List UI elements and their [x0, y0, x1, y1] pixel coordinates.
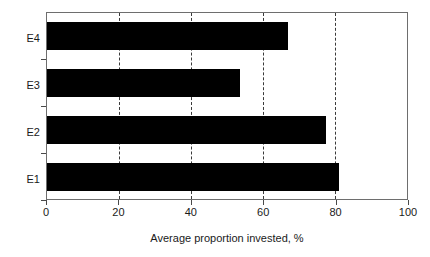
bar-e1	[47, 163, 339, 191]
x-axis-ticklabel-40: 40	[171, 206, 211, 219]
bar-e3	[47, 69, 240, 97]
bar-chart-figure: E4 E3 E2 E1 0 20 40 60 80 100 Average pr…	[0, 0, 430, 257]
x-axis-ticklabel-0: 0	[26, 206, 66, 219]
x-axis-tick-20	[118, 200, 119, 205]
x-axis-tick-0	[46, 200, 47, 205]
bar-e4	[47, 22, 288, 50]
x-axis-tick-60	[263, 200, 264, 205]
x-axis-tick-40	[191, 200, 192, 205]
y-axis-label-e1: E1	[6, 174, 40, 185]
x-axis-tick-100	[408, 200, 409, 205]
x-axis-title: Average proportion invested, %	[46, 232, 408, 244]
bar-e2	[47, 116, 326, 144]
x-axis-ticklabel-100: 100	[388, 206, 428, 219]
plot-area	[46, 12, 408, 200]
x-axis-tick-80	[336, 200, 337, 205]
y-axis-label-e2: E2	[6, 127, 40, 138]
x-axis-ticklabel-80: 80	[316, 206, 356, 219]
x-axis-ticklabel-60: 60	[243, 206, 283, 219]
y-axis-label-e4: E4	[6, 33, 40, 44]
x-axis-ticklabel-20: 20	[98, 206, 138, 219]
y-axis-label-e3: E3	[6, 80, 40, 91]
